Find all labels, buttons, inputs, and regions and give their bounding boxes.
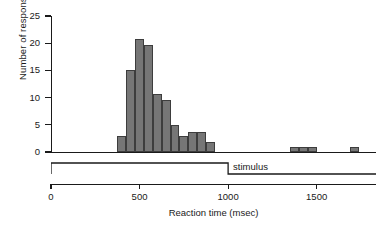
- stimulus-label: stimulus: [233, 161, 268, 172]
- y-tick-label-25: 25: [14, 11, 40, 20]
- x-tick-label-1500: 1500: [295, 191, 339, 202]
- histogram-bar: [290, 147, 299, 152]
- histogram-bar: [179, 136, 188, 152]
- x-axis-title: Reaction time (msec): [51, 207, 376, 218]
- histogram-bar: [299, 147, 308, 152]
- histogram-bar: [308, 147, 317, 152]
- y-tick-label-0: 0: [14, 147, 40, 156]
- histogram-bar: [197, 132, 206, 152]
- y-tick-label-20: 20: [14, 38, 40, 47]
- x-tick-500: [139, 184, 140, 189]
- histogram-bar: [162, 100, 171, 152]
- histogram-bar: [135, 39, 144, 152]
- histogram-bar: [206, 142, 215, 152]
- histogram-bar: [171, 125, 180, 152]
- histogram-bar: [126, 70, 135, 152]
- histogram-bar: [153, 94, 162, 152]
- x-tick-1500: [316, 184, 317, 189]
- histogram-bar: [350, 147, 359, 152]
- x-tick-label-500: 500: [118, 191, 162, 202]
- reaction-time-histogram-figure: Number of responses 0510152025 stimulus …: [0, 0, 382, 228]
- histogram-bars: [51, 16, 376, 152]
- x-tick-label-0: 0: [29, 191, 73, 202]
- histogram-bar: [188, 132, 197, 152]
- x-axis-baseline: [51, 152, 376, 153]
- histogram-bar: [144, 45, 153, 152]
- y-tick-label-10: 10: [14, 93, 40, 102]
- histogram-bar: [117, 136, 126, 152]
- x-tick-label-1000: 1000: [206, 191, 250, 202]
- x-tick-1000: [228, 184, 229, 189]
- x-axis-line: [51, 184, 376, 185]
- y-tick-label-5: 5: [14, 120, 40, 129]
- y-tick-label-15: 15: [14, 65, 40, 74]
- x-tick-0: [50, 184, 51, 189]
- stimulus-trace: [51, 160, 376, 176]
